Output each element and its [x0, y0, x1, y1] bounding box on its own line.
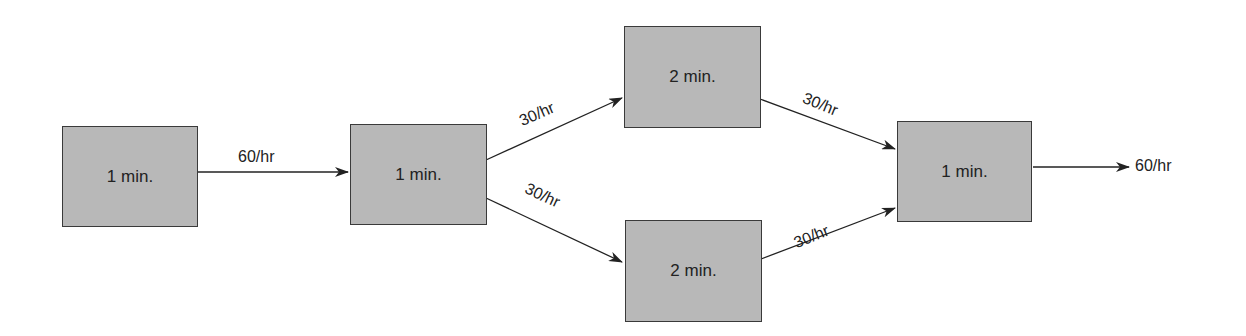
flow-label-s1-s2: 60/hr [238, 148, 274, 166]
station-4-time: 2 min. [670, 261, 716, 281]
station-3-time: 2 min. [669, 67, 715, 87]
station-3: 2 min. [624, 26, 761, 128]
station-5: 1 min. [897, 121, 1032, 222]
station-2-time: 1 min. [395, 165, 441, 185]
station-2: 1 min. [350, 124, 487, 225]
station-1-time: 1 min. [107, 167, 153, 187]
station-4: 2 min. [625, 220, 762, 322]
station-1: 1 min. [62, 126, 198, 227]
flow-label-output: 60/hr [1135, 157, 1171, 175]
station-5-time: 1 min. [941, 162, 987, 182]
